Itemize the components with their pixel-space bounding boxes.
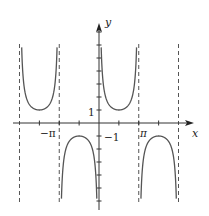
tick-label-one: 1	[88, 106, 95, 118]
csc-branch	[22, 47, 57, 110]
csc-branch	[141, 136, 176, 199]
x-axis-label: x	[192, 127, 199, 140]
csc-graph: y x −π π 1 −1	[0, 0, 209, 216]
csc-branch	[61, 136, 96, 199]
tick-label-pi: π	[139, 127, 148, 139]
y-axis-label: y	[104, 16, 112, 29]
tick-label-neg-one: −1	[104, 131, 119, 143]
csc-branch	[101, 47, 136, 110]
tick-label-neg-pi: −π	[40, 127, 56, 139]
